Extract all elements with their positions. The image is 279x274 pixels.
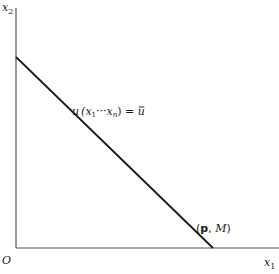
utility-label: u(x1···xn) = u	[72, 105, 145, 119]
x-axis-label: x1	[264, 256, 275, 271]
price-income-label: (p, M)	[196, 222, 231, 235]
budget-line	[16, 57, 213, 248]
diagram-svg: x2 x1 O u(x1···xn) = u (p, M)	[0, 0, 279, 274]
origin-label: O	[2, 254, 11, 267]
diagram-canvas: x2 x1 O u(x1···xn) = u (p, M)	[0, 0, 279, 274]
y-axis-label: x2	[2, 1, 13, 16]
